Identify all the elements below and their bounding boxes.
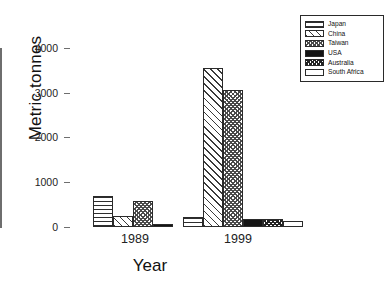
- legend-swatch-china-icon: [305, 30, 324, 37]
- y-axis-line: [0, 48, 2, 228]
- bar-1999-australia: [263, 219, 283, 227]
- legend-label-australia: Australia: [328, 59, 354, 67]
- legend-swatch-usa-icon: [305, 50, 324, 57]
- y-tick-label-0: 0: [12, 221, 58, 233]
- legend-label-taiwan: Taiwan: [328, 39, 349, 47]
- bar-1999-japan: [183, 217, 203, 227]
- x-axis-title: Year: [0, 256, 300, 276]
- y-tick-label-4000: 4000: [12, 42, 58, 54]
- y-tick-label-3000: 3000: [12, 87, 58, 99]
- y-tick-label-1000: 1000: [12, 176, 58, 188]
- plot-area: [70, 48, 320, 228]
- x-tick-label-1999: 1999: [208, 232, 268, 246]
- bar-1999-usa: [243, 219, 263, 227]
- legend-item-japan: Japan: [305, 20, 379, 29]
- legend-swatch-taiwan-icon: [305, 40, 324, 47]
- legend-swatch-japan-icon: [305, 21, 324, 28]
- legend-item-australia: Australia: [305, 58, 379, 67]
- x-tick-label-1989: 1989: [105, 232, 165, 246]
- bar-1999-south-africa: [283, 221, 303, 227]
- legend-swatch-australia-icon: [305, 59, 324, 66]
- legend-item-china: China: [305, 30, 379, 39]
- bar-chart: Metric tonnes Year 0 1000 2000 3000 4000…: [0, 0, 392, 296]
- bar-group-1999: [70, 48, 320, 227]
- legend-swatch-south-africa-icon: [305, 69, 324, 76]
- legend: Japan China Taiwan USA Australia South A…: [300, 15, 384, 82]
- y-tick-label-2000: 2000: [12, 131, 58, 143]
- legend-label-south-africa: South Africa: [328, 68, 364, 76]
- bar-1999-taiwan: [223, 90, 243, 227]
- legend-label-china: China: [328, 30, 345, 38]
- legend-label-usa: USA: [328, 49, 342, 57]
- legend-item-south-africa: South Africa: [305, 68, 379, 77]
- legend-item-taiwan: Taiwan: [305, 39, 379, 48]
- legend-label-japan: Japan: [328, 20, 346, 28]
- bar-1999-china: [203, 68, 223, 227]
- legend-item-usa: USA: [305, 49, 379, 58]
